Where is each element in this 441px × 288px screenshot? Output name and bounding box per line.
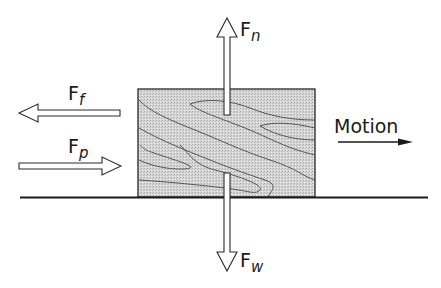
normal-force-label: Fn: [240, 18, 260, 45]
motion-label: Motion: [334, 115, 398, 137]
weight-force-label: Fw: [240, 249, 264, 276]
push-force-label: Fp: [68, 135, 88, 162]
friction-force-arrow: [19, 104, 120, 122]
motion-arrow: [338, 139, 413, 146]
friction-force-label: Ff: [68, 82, 87, 109]
free-body-diagram: Fn Fw Ff Fp Motion: [0, 0, 441, 288]
push-force-arrow: [19, 157, 121, 175]
